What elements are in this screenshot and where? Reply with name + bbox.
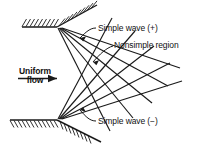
lower-wall: [10, 120, 101, 144]
label-uniform-flow: Uniform flow: [8, 67, 62, 85]
lower-wall-inclined-hatching: [60, 122, 91, 144]
label-simple-wave-minus: Simple wave (−): [98, 117, 158, 126]
lower-fan-ray-4: [61, 63, 170, 119]
label-simple-wave-plus: Simple wave (+): [98, 24, 158, 33]
lower-fan-ray-5: [62, 81, 182, 119]
lower-wall-inclined-line: [57, 120, 101, 142]
upper-wall-inclined-hatching: [59, 1, 97, 26]
leader-line-simple-wave-minus: [80, 110, 96, 121]
lower-wall-horizontal-hatching: [10, 120, 58, 127]
upper-wall-horizontal-hatching: [22, 19, 59, 27]
label-uniform-flow-line2: flow: [8, 76, 62, 85]
lower-fan-ray-3: [60, 46, 154, 119]
label-nonsimple-region: Nonsimple region: [114, 41, 179, 50]
upper-wall: [22, 1, 97, 27]
wave-interaction-figure: Simple wave (+) Nonsimple region Simple …: [0, 0, 205, 146]
